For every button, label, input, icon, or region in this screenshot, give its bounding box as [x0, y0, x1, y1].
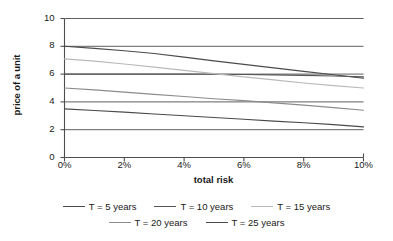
legend-swatch-icon [154, 206, 176, 207]
axes-group [65, 19, 364, 158]
chart-figure: price of a unit 0246810 0%2%4%6%8%10% to… [0, 0, 393, 241]
legend-row: T = 20 yearsT = 25 years [0, 214, 393, 230]
x-tick-label: 4% [166, 159, 202, 170]
x-tick-label: 0% [47, 159, 83, 170]
legend-item[interactable]: T = 5 years [63, 201, 137, 212]
legend-row: T = 5 yearsT = 10 yearsT = 15 years [0, 198, 393, 214]
legend-swatch-icon [109, 222, 131, 223]
legend-label: T = 5 years [89, 201, 137, 212]
legend-item[interactable]: T = 10 years [154, 201, 233, 212]
y-tick-label: 8 [33, 39, 55, 50]
legend-swatch-icon [251, 206, 273, 207]
y-tick-label: 10 [33, 12, 55, 23]
legend-label: T = 20 years [135, 217, 188, 228]
series-line-5 [65, 109, 364, 127]
series-line-4 [65, 88, 364, 110]
legend-swatch-icon [206, 222, 228, 223]
data-series-group [65, 46, 364, 127]
legend-label: T = 10 years [180, 201, 233, 212]
y-tick-label: 2 [33, 123, 55, 134]
chart-legend: T = 5 yearsT = 10 yearsT = 15 yearsT = 2… [0, 198, 393, 230]
x-axis-title: total risk [64, 174, 363, 185]
legend-item[interactable]: T = 25 years [206, 217, 285, 228]
legend-item[interactable]: T = 15 years [251, 201, 330, 212]
tick-marks-group [61, 19, 364, 162]
y-tick-label: 4 [33, 95, 55, 106]
legend-label: T = 15 years [277, 201, 330, 212]
x-tick-label: 10% [346, 159, 382, 170]
y-tick-label: 6 [33, 67, 55, 78]
x-tick-label: 2% [106, 159, 142, 170]
x-tick-label: 8% [286, 159, 322, 170]
legend-label: T = 25 years [232, 217, 285, 228]
legend-swatch-icon [63, 206, 85, 207]
legend-item[interactable]: T = 20 years [109, 217, 188, 228]
x-tick-label: 6% [226, 159, 262, 170]
